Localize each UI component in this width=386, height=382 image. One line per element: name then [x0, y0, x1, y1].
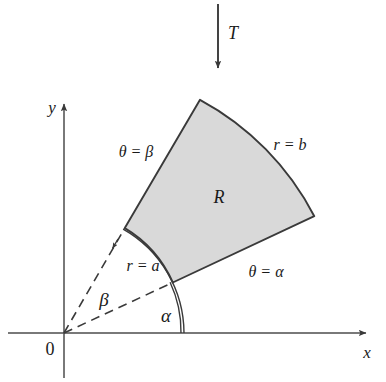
- angle-label-beta: β: [99, 290, 108, 309]
- load-label-T: T: [228, 24, 238, 42]
- x-axis-label: x: [363, 344, 371, 361]
- angle-label-alpha: α: [161, 306, 171, 325]
- boundary-label-theta-beta: θ = β: [119, 144, 154, 160]
- beta-ray-tip-arrow: [113, 239, 118, 248]
- boundary-label-theta-alpha: θ = α: [248, 264, 283, 280]
- boundary-label-r-b: r = b: [273, 137, 306, 153]
- dashed-ray-alpha: [64, 283, 173, 334]
- figure-canvas: T y x 0 R θ = β r = b r = a θ = α β α: [0, 0, 386, 382]
- y-axis-label: y: [48, 99, 56, 116]
- polar-region-diagram: [0, 0, 386, 382]
- boundary-label-r-a: r = a: [126, 258, 159, 274]
- origin-label: 0: [46, 340, 55, 358]
- region-label-R: R: [214, 188, 225, 206]
